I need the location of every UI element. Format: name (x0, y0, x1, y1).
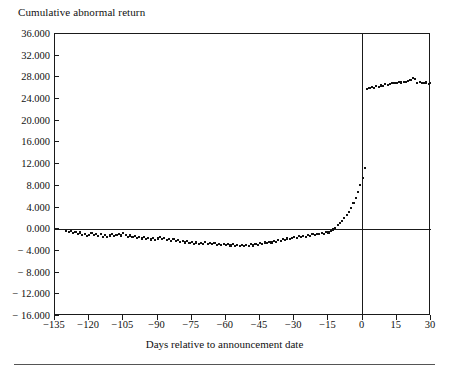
data-point (166, 239, 168, 241)
data-point (277, 239, 279, 241)
y-axis-tick-label: − 4.000 (18, 244, 50, 255)
data-point (275, 241, 277, 243)
data-point (100, 233, 102, 235)
data-point (339, 222, 341, 224)
data-point (318, 233, 320, 235)
x-axis-tick-label: −120 (77, 319, 99, 330)
data-point (134, 235, 136, 237)
data-point (346, 214, 348, 216)
y-axis-tick-label: 32.000 (21, 49, 50, 60)
y-axis-tick-label: − 12.000 (13, 288, 50, 299)
data-point (177, 239, 179, 241)
data-point (334, 227, 336, 229)
y-axis-tick-label: 36.000 (21, 28, 50, 39)
data-point (273, 240, 275, 242)
y-axis-tick-mark (54, 55, 59, 56)
data-point (234, 245, 236, 247)
data-point (382, 85, 384, 87)
data-point (387, 84, 389, 86)
data-point (430, 82, 431, 84)
data-point (109, 234, 111, 236)
data-point (136, 237, 138, 239)
data-point (218, 243, 220, 245)
data-point (409, 79, 411, 81)
data-point (357, 191, 359, 193)
data-point (398, 81, 400, 83)
data-point (314, 234, 316, 236)
x-axis-tick-label: −30 (285, 319, 301, 330)
data-point (223, 243, 225, 245)
data-point (400, 81, 402, 83)
data-point (421, 82, 423, 84)
plot-area (54, 33, 430, 315)
data-point (150, 238, 152, 240)
data-point (284, 239, 286, 241)
data-point (170, 240, 172, 242)
x-axis-tick-label: −135 (43, 319, 65, 330)
data-point (191, 241, 193, 243)
data-point (157, 237, 159, 239)
data-point (423, 82, 425, 84)
x-axis-tick-mark (362, 315, 363, 320)
data-point (127, 236, 129, 238)
y-axis-tick-mark (54, 98, 59, 99)
data-point (282, 238, 284, 240)
data-point (250, 243, 252, 245)
x-axis-tick-mark (54, 315, 55, 320)
data-point (373, 87, 375, 89)
x-axis-tick-label: 30 (425, 319, 436, 330)
data-point (154, 239, 156, 241)
data-point (416, 82, 418, 84)
data-point (366, 88, 368, 90)
data-point (202, 243, 204, 245)
data-point (111, 233, 113, 235)
data-point (245, 244, 247, 246)
data-point (79, 231, 81, 233)
data-point (384, 83, 386, 85)
data-point (266, 242, 268, 244)
x-axis-tick-mark (259, 315, 260, 320)
data-point (350, 207, 352, 209)
y-axis-tick-label: 4.000 (26, 201, 50, 212)
data-point (378, 86, 380, 88)
data-point (145, 238, 147, 240)
data-point (88, 234, 90, 236)
data-point (84, 233, 86, 235)
data-point (200, 242, 202, 244)
data-point (115, 234, 117, 236)
data-point (293, 236, 295, 238)
data-point (380, 84, 382, 86)
data-point (355, 197, 357, 199)
data-point (81, 234, 83, 236)
data-point (163, 237, 165, 239)
data-point (220, 244, 222, 246)
data-point (182, 240, 184, 242)
data-point (291, 237, 293, 239)
data-point (407, 80, 409, 82)
y-axis-tick-label: 16.000 (21, 136, 50, 147)
data-point (248, 245, 250, 247)
data-point (143, 236, 145, 238)
data-point (129, 234, 131, 236)
data-point (113, 235, 115, 237)
data-point (179, 241, 181, 243)
data-point (131, 236, 133, 238)
data-point (188, 242, 190, 244)
data-point (419, 81, 421, 83)
data-point (296, 237, 298, 239)
data-point (405, 81, 407, 83)
data-point (159, 236, 161, 238)
data-point (138, 236, 140, 238)
data-point (175, 240, 177, 242)
data-point (252, 244, 254, 246)
data-point (307, 234, 309, 236)
data-point (364, 167, 366, 169)
x-axis-tick-mark (293, 315, 294, 320)
y-axis-tick-mark (54, 185, 59, 186)
data-point (391, 82, 393, 84)
data-point (77, 233, 79, 235)
x-axis-tick-label: −90 (148, 319, 164, 330)
data-point (309, 235, 311, 237)
x-axis-tick-label: −60 (217, 319, 233, 330)
data-point (198, 243, 200, 245)
